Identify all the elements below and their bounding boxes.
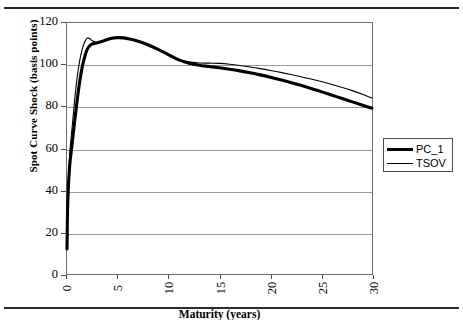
legend-swatch-pc_1	[387, 148, 413, 151]
x-axis: 051015202530	[66, 275, 373, 309]
x-tick-label: 10	[162, 281, 177, 295]
x-tick-mark	[117, 275, 118, 279]
legend-item[interactable]: PC_1	[384, 142, 452, 156]
plot-area	[66, 22, 373, 275]
x-tick-label: 20	[265, 281, 280, 295]
y-tick-label: 0	[52, 267, 58, 282]
legend-label: PC_1	[416, 144, 444, 155]
x-tick-label: 15	[214, 281, 229, 295]
chart-legend: PC_1TSOV	[383, 138, 453, 172]
legend-swatch-tsov	[387, 163, 413, 164]
legend-label: TSOV	[416, 158, 446, 169]
x-tick-mark	[66, 275, 67, 279]
legend-item[interactable]: TSOV	[384, 156, 452, 170]
y-tick-label: 100	[39, 56, 58, 71]
series-line-pc_1	[67, 38, 372, 249]
page-rule-top	[4, 7, 459, 9]
y-tick-label: 40	[46, 183, 59, 198]
x-axis-title: Maturity (years)	[66, 308, 373, 320]
y-tick-label: 80	[46, 98, 59, 113]
y-tick-label: 60	[46, 141, 59, 156]
x-tick-mark	[271, 275, 272, 279]
x-tick-mark	[220, 275, 221, 279]
y-axis: 020406080100120	[0, 22, 66, 275]
x-tick-mark	[322, 275, 323, 279]
y-tick-label: 20	[46, 225, 59, 240]
series-layer	[67, 23, 372, 274]
x-tick-mark	[373, 275, 374, 279]
x-tick-label: 25	[316, 281, 331, 295]
x-tick-label: 30	[367, 281, 382, 295]
x-tick-label: 0	[60, 281, 75, 295]
series-line-tsov	[67, 38, 372, 249]
chart-figure: Spot Curve Shock (basis points) 02040608…	[0, 10, 463, 308]
x-tick-mark	[168, 275, 169, 279]
y-tick-label: 120	[39, 14, 58, 29]
x-tick-label: 5	[111, 281, 126, 295]
